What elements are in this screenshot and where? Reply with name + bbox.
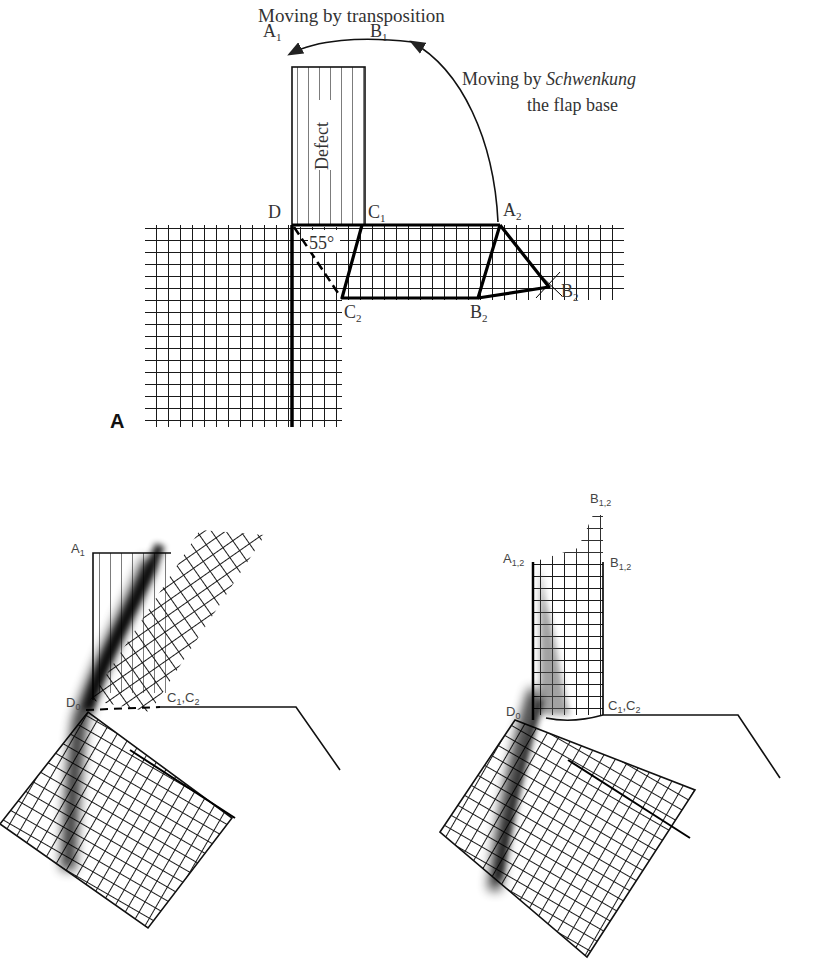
panel-letter-a: A [110, 410, 124, 432]
label-C1C2: C1,C2 [608, 698, 640, 715]
skin-grid-lower [440, 720, 695, 957]
transposition-annotation: Moving by transposition [258, 5, 445, 26]
flap-transposition-figure: Moving by transposition Moving by Schwen… [0, 0, 814, 968]
schwenkung-annotation: Moving by Schwenkung [462, 69, 636, 89]
label-A1: A1 [71, 541, 85, 558]
angle-label: 55° [309, 233, 334, 253]
label-A2: A2 [503, 200, 522, 222]
label-D: D [268, 202, 281, 222]
label-D0: D0 [506, 704, 520, 721]
label-B2-bottom: B2 [470, 302, 488, 324]
skin-grid-lower [0, 712, 232, 928]
flap-base-annotation: the flap base [527, 95, 618, 115]
transposition-arc-arrow [290, 39, 412, 54]
skin-grid-horizontal [342, 225, 624, 300]
panel-b-right: B1,2 A1,2 B1,2 D0 C1,C2 [440, 491, 780, 957]
label-C1C2: C1,C2 [167, 690, 199, 707]
label-C2: C2 [344, 302, 362, 324]
label-C1: C1 [368, 202, 386, 224]
defect-label: Defect [312, 122, 332, 170]
remaining-incision-outline [160, 707, 340, 770]
label-D0: D0 [66, 695, 80, 712]
label-B12-top: B1,2 [590, 491, 611, 508]
label-B12: B1,2 [610, 555, 631, 572]
label-A12: A1,2 [503, 551, 524, 568]
closure-curve [546, 715, 603, 720]
panel-a: Moving by transposition Moving by Schwen… [110, 5, 636, 432]
panel-b-left: A1 D0 C1,C2 [0, 530, 340, 928]
